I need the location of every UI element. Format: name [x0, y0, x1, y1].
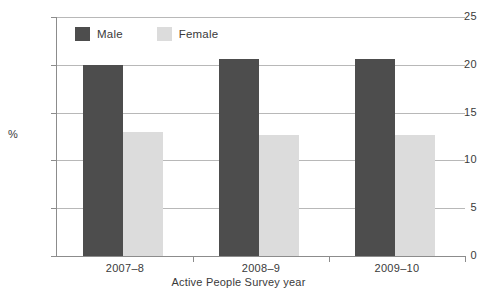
bar-male-1: [219, 59, 259, 256]
bar-chart: 0510152025 % 2007–82008–92009–10 Active …: [0, 0, 477, 297]
bar-female-1: [259, 135, 299, 256]
x-axis-category-label: 2009–10: [329, 262, 465, 274]
x-axis-category-label: 2008–9: [193, 262, 329, 274]
x-axis-tick-end: [465, 257, 466, 262]
legend-label-female: Female: [179, 28, 219, 40]
bars-layer: [57, 17, 465, 256]
legend-entry-male[interactable]: Male: [75, 27, 123, 41]
x-axis-category-label: 2007–8: [57, 262, 193, 274]
legend-swatch-male: [75, 27, 90, 41]
legend-swatch-female: [157, 27, 172, 41]
x-axis-tick: [193, 257, 194, 262]
y-axis-title: %: [8, 128, 18, 140]
bar-male-0: [83, 65, 123, 256]
chart-legend: Male Female: [75, 27, 218, 41]
bar-female-0: [123, 132, 163, 256]
bar-male-2: [355, 59, 395, 256]
x-axis-tick: [329, 257, 330, 262]
x-axis-line: [56, 256, 466, 257]
bar-female-2: [395, 135, 435, 256]
legend-label-male: Male: [97, 28, 123, 40]
legend-entry-female[interactable]: Female: [157, 27, 219, 41]
x-axis-title: Active People Survey year: [0, 276, 477, 288]
